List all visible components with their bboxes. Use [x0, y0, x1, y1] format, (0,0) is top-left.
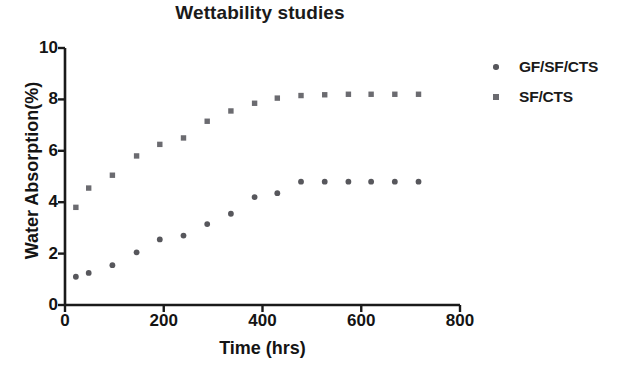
- data-point: [86, 270, 92, 276]
- legend-square-marker-icon: [486, 94, 506, 100]
- data-point: [228, 108, 233, 113]
- data-point: [346, 92, 351, 97]
- data-point: [416, 179, 422, 185]
- data-point: [298, 93, 303, 98]
- data-point: [274, 190, 280, 196]
- data-point: [252, 194, 258, 200]
- chart-figure: Wettability studies Water Absorption(%) …: [0, 0, 630, 368]
- plot-canvas: [65, 48, 460, 305]
- legend-item[interactable]: GF/SF/CTS: [486, 52, 630, 82]
- y-tick-label: 4: [28, 193, 58, 210]
- data-point: [416, 92, 421, 97]
- data-point: [73, 205, 78, 210]
- x-tick-label: 600: [331, 312, 391, 329]
- data-point: [86, 185, 91, 190]
- data-point: [298, 179, 304, 185]
- chart-legend: GF/SF/CTSSF/CTS: [486, 52, 630, 112]
- legend-label: SF/CTS: [519, 88, 573, 106]
- data-point: [322, 179, 328, 185]
- data-point: [252, 101, 257, 106]
- data-point: [181, 135, 186, 140]
- data-point: [157, 142, 162, 147]
- legend-circle-marker-icon: [486, 64, 506, 70]
- series-sf-cts: [73, 92, 421, 210]
- x-tick-label: 800: [430, 312, 490, 329]
- data-point: [392, 92, 397, 97]
- series-gf-sf-cts: [73, 179, 421, 280]
- y-tick-label: 6: [28, 142, 58, 159]
- data-point: [134, 249, 140, 255]
- data-point: [157, 237, 163, 243]
- data-points: [73, 92, 421, 280]
- data-point: [205, 119, 210, 124]
- y-tick-label: 0: [28, 296, 58, 313]
- x-axis-title: Time (hrs): [65, 338, 460, 359]
- data-point: [346, 179, 352, 185]
- data-point: [204, 221, 210, 227]
- y-tick-label: 10: [28, 39, 58, 56]
- data-point: [134, 153, 139, 158]
- data-point: [275, 95, 280, 100]
- x-tick-label: 400: [233, 312, 293, 329]
- data-point: [228, 211, 234, 217]
- legend-label: GF/SF/CTS: [519, 58, 598, 76]
- chart-title: Wettability studies: [100, 2, 420, 24]
- data-point: [392, 179, 398, 185]
- x-tick-label: 200: [134, 312, 194, 329]
- data-point: [110, 262, 116, 268]
- y-axis-tick-labels: 0246810: [26, 48, 58, 305]
- y-tick-label: 2: [28, 245, 58, 262]
- y-tick-label: 8: [28, 90, 58, 107]
- x-tick-label: 0: [35, 312, 95, 329]
- axes: [58, 48, 460, 312]
- plot-area: [65, 48, 460, 305]
- data-point: [110, 173, 115, 178]
- data-point: [368, 92, 373, 97]
- data-point: [73, 274, 79, 280]
- x-axis-tick-labels: 0200400600800: [65, 312, 465, 334]
- legend-item[interactable]: SF/CTS: [486, 82, 630, 112]
- data-point: [368, 179, 374, 185]
- data-point: [181, 233, 187, 239]
- data-point: [322, 92, 327, 97]
